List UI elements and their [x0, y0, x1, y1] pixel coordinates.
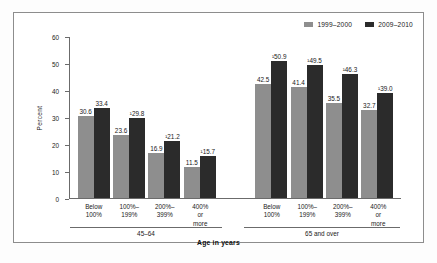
age-group-labels-1: Below100%100%–199%200%–399%400%ormore	[70, 203, 222, 225]
bar[interactable]: ¹39.0	[377, 93, 393, 198]
bar-value-label: 35.5	[328, 95, 340, 102]
category-label: 200%–399%	[147, 203, 183, 225]
bar[interactable]: ¹15.7	[200, 156, 216, 198]
bar[interactable]: 42.5	[255, 84, 271, 198]
x-axis-label: Age in years	[14, 239, 423, 246]
group-bracket-line	[70, 227, 222, 228]
y-tick-60: 60	[65, 37, 69, 38]
bar[interactable]: 32.7	[361, 110, 377, 198]
bar[interactable]: ¹29.8	[129, 118, 145, 198]
bar-value-label: ¹21.2	[165, 133, 180, 140]
bar-value-label: 41.4	[292, 79, 304, 86]
bar-group: 11.5¹15.7	[182, 37, 217, 198]
y-tick-10: 10	[65, 172, 69, 173]
legend-swatch-1999-2000	[304, 22, 313, 27]
bar-value-label: ¹15.7	[201, 148, 216, 155]
bar[interactable]: ¹46.3	[342, 74, 358, 198]
bar[interactable]: 11.5	[184, 167, 200, 198]
y-tick-20: 20	[65, 145, 69, 146]
bar[interactable]: ¹50.9	[271, 61, 287, 198]
y-tick-label-60: 60	[52, 34, 59, 41]
bar-value-label: 30.6	[79, 108, 91, 115]
bar-group: 42.5¹50.9	[254, 37, 289, 198]
chart-frame: 1999–2000 2009–2010 Percent 010203040506…	[13, 12, 424, 243]
bar-group: 16.9¹21.2	[147, 37, 182, 198]
plot-area: Percent 0102030405060 30.633.423.6¹29.81…	[69, 37, 399, 199]
category-tick-labels: Below100%100%–199%200%–399%400%ormoreBel…	[70, 203, 400, 225]
bar[interactable]: 41.4	[291, 87, 307, 198]
legend-item-2009-2010: 2009–2010	[365, 21, 413, 28]
category-label: Below100%	[76, 203, 112, 225]
bar[interactable]: ¹21.2	[164, 141, 180, 198]
bar-group: 32.7¹39.0	[360, 37, 395, 198]
y-tick-0: 0	[65, 199, 69, 200]
bar[interactable]: 35.5	[326, 103, 342, 198]
legend-swatch-2009-2010	[365, 22, 374, 27]
y-tick-label-0: 0	[55, 196, 59, 203]
category-label: 100%–199%	[112, 203, 148, 225]
category-label: 100%–199%	[290, 203, 326, 225]
bar[interactable]: 30.6	[78, 116, 94, 198]
y-tick-label-10: 10	[52, 169, 59, 176]
age-group-labels-2: Below100%100%–199%200%–399%400%ormore	[244, 203, 400, 225]
bar-value-label: 32.7	[363, 102, 375, 109]
bar-value-label: ¹29.8	[130, 110, 145, 117]
bar-value-label: ¹46.3	[343, 66, 358, 73]
y-tick-label-40: 40	[52, 88, 59, 95]
legend-label-2009-2010: 2009–2010	[378, 21, 413, 28]
category-label: 400%ormore	[183, 203, 219, 225]
group-bracket-line	[244, 227, 400, 228]
category-label: Below100%	[254, 203, 290, 225]
bar-value-label: ¹50.9	[272, 53, 287, 60]
y-tick-label-30: 30	[52, 115, 59, 122]
bar-group: 30.633.4	[76, 37, 111, 198]
bar-value-label: 11.5	[186, 159, 198, 166]
legend-item-1999-2000: 1999–2000	[304, 21, 352, 28]
group-name: 65 and over	[244, 230, 400, 237]
bar-group: 41.4¹49.5	[289, 37, 324, 198]
bar-value-label: ¹49.5	[307, 57, 322, 64]
category-label: 200%–399%	[325, 203, 361, 225]
bar-series-container: 30.633.423.6¹29.816.9¹21.211.5¹15.742.5¹…	[70, 37, 399, 198]
x-axis-line	[69, 198, 401, 199]
y-tick-50: 50	[65, 64, 69, 65]
y-axis-label: Percent	[36, 106, 43, 131]
bar-value-label: 33.4	[95, 100, 107, 107]
y-tick-30: 30	[65, 118, 69, 119]
bar-value-label: ¹39.0	[378, 85, 393, 92]
bar-value-label: 16.9	[150, 145, 162, 152]
group-gap	[222, 203, 244, 225]
y-tick-label-20: 20	[52, 142, 59, 149]
age-group-2: 42.5¹50.941.4¹49.535.5¹46.332.7¹39.0	[244, 37, 400, 198]
bar[interactable]: 33.4	[94, 108, 110, 198]
bar[interactable]: 23.6	[113, 135, 129, 198]
chart-legend: 1999–2000 2009–2010	[304, 21, 413, 28]
bar-group: 35.5¹46.3	[324, 37, 359, 198]
bar-value-label: 23.6	[115, 127, 127, 134]
legend-label-1999-2000: 1999–2000	[317, 21, 352, 28]
age-group-1: 30.633.423.6¹29.816.9¹21.211.5¹15.7	[70, 37, 222, 198]
bar-value-label: 42.5	[257, 76, 269, 83]
bar-group: 23.6¹29.8	[111, 37, 146, 198]
bar[interactable]: ¹49.5	[307, 65, 323, 198]
y-tick-label-50: 50	[52, 61, 59, 68]
y-tick-40: 40	[65, 91, 69, 92]
group-name: 45–64	[70, 230, 222, 237]
category-label: 400%ormore	[361, 203, 397, 225]
bar[interactable]: 16.9	[148, 153, 164, 198]
